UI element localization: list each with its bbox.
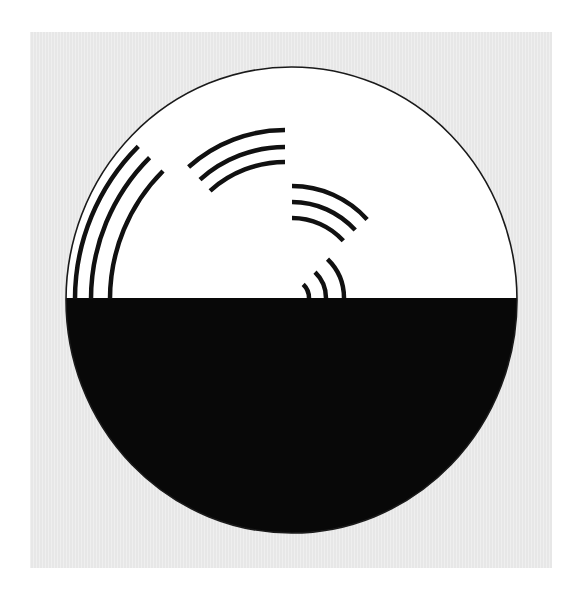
- disc-black-lower-half: [60, 298, 530, 548]
- disc-figure: [0, 0, 579, 589]
- disc: [60, 67, 530, 548]
